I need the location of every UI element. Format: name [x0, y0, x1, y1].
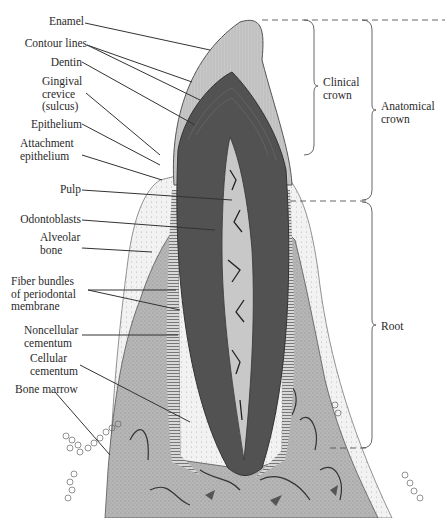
- label-alveolar-bone: Alveolar bone: [40, 231, 80, 256]
- label-contour-lines: Contour lines: [25, 37, 87, 50]
- label-clinical-crown: Clinical crown: [323, 76, 359, 101]
- tooth-diagram: Enamel Contour lines Dentin Gingival cre…: [0, 0, 447, 518]
- label-attachment-epithelium: Attachment epithelium: [20, 137, 74, 162]
- label-odontoblasts: Odontoblasts: [20, 213, 81, 226]
- label-anatomical-crown: Anatomical crown: [381, 100, 435, 125]
- label-dentin: Dentin: [51, 56, 82, 69]
- label-gingival-crevice: Gingival crevice (sulcus): [42, 75, 82, 113]
- label-pulp: Pulp: [60, 183, 81, 196]
- label-bone-marrow: Bone marrow: [15, 383, 78, 396]
- label-noncellular-cementum: Noncellular cementum: [24, 324, 78, 349]
- label-enamel: Enamel: [49, 15, 84, 28]
- label-root: Root: [381, 320, 403, 333]
- label-epithelium: Epithelium: [31, 118, 82, 131]
- label-cellular-cementum: Cellular cementum: [30, 352, 78, 377]
- label-fiber-bundles: Fiber bundles of periodontal membrane: [11, 275, 76, 313]
